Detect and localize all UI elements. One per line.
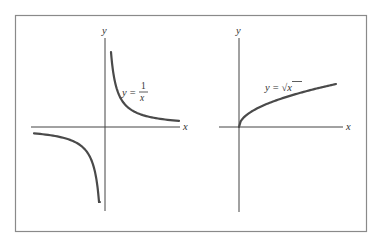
sqrt-equation-label: y=√x (264, 82, 302, 94)
eq-radicand: x (286, 82, 292, 93)
svg-text:y=√x: y=√x (264, 82, 292, 93)
reciprocal-equation-label: y= 1 x (121, 81, 148, 103)
sqrt-y-axis-label: y (235, 25, 241, 36)
eq-numerator: 1 (141, 81, 146, 91)
eq-sign: = (130, 87, 136, 98)
eq-denominator: x (139, 93, 145, 103)
sqrt-panel: x y y=√x (219, 25, 351, 212)
figure-frame (16, 16, 367, 232)
reciprocal-y-axis-label: y (101, 25, 107, 36)
eq-lhs: y (121, 87, 127, 98)
sqrt-x-axis-label: x (345, 121, 351, 132)
eq-lhs: y (264, 82, 270, 93)
reciprocal-curve-negative-branch (34, 133, 100, 202)
reciprocal-x-axis-label: x (182, 121, 188, 132)
reciprocal-panel: x y y= 1 x (31, 25, 188, 211)
function-graphs-figure: x y y= 1 x x y y=√x (0, 0, 383, 246)
svg-text:y=: y= (121, 87, 136, 98)
eq-sign: = (273, 82, 279, 93)
